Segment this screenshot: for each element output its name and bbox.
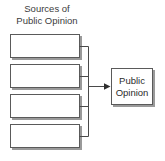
source-box-2-frame[interactable] (11, 65, 80, 88)
diagram-canvas: Sources of Public Opinion (0, 0, 165, 161)
public-opinion-label-line1: Public (119, 75, 145, 86)
source-box-1-frame[interactable] (11, 35, 80, 58)
diagram-title: Sources of Public Opinion (16, 3, 77, 26)
public-opinion-label-line2: Opinion (116, 87, 149, 98)
source-box-3-frame[interactable] (11, 95, 80, 118)
source-box-4[interactable] (11, 125, 83, 151)
arrow-head-icon (104, 83, 111, 89)
diagram-title-line2: Public Opinion (16, 15, 77, 26)
public-opinion-box[interactable]: Public Opinion (112, 69, 156, 108)
source-box-3[interactable] (11, 95, 83, 121)
source-box-2[interactable] (11, 65, 83, 91)
source-box-4-frame[interactable] (11, 125, 80, 148)
diagram-title-line1: Sources of (24, 3, 70, 14)
diagram-svg: Sources of Public Opinion (0, 0, 165, 161)
source-box-1[interactable] (11, 35, 83, 61)
connector-lines (80, 47, 111, 137)
